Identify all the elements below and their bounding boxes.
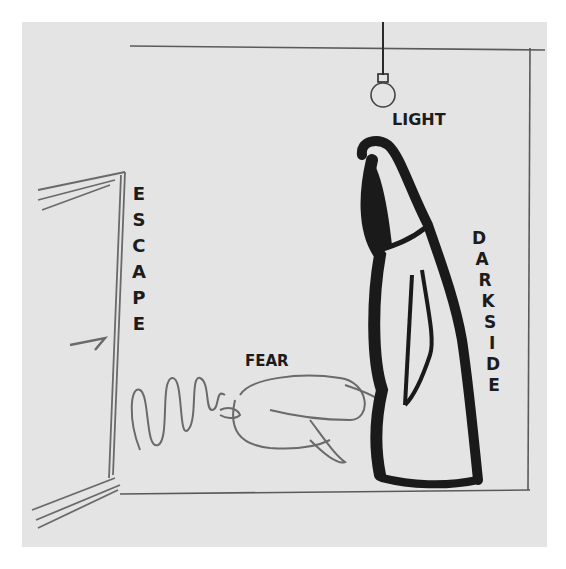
label-light: LIGHT	[392, 110, 446, 129]
label-escape-letter: A	[132, 263, 146, 281]
label-darkside-letter: S	[484, 314, 496, 331]
label-darkside: D A R K S I D E	[458, 230, 500, 394]
label-darkside-letter: K	[481, 293, 494, 310]
label-fear: FEAR	[245, 352, 289, 370]
label-darkside-letter: D	[486, 356, 500, 373]
label-escape-letter: C	[132, 237, 145, 255]
label-darkside-letter: A	[475, 251, 488, 268]
label-escape-letter: S	[132, 211, 145, 229]
sketch-canvas: LIGHT E S C A P E FEAR D A R K S I D E	[0, 0, 566, 569]
label-escape: E S C A P E	[132, 185, 146, 333]
label-darkside-letter: I	[489, 335, 495, 352]
label-escape-letter: E	[133, 185, 145, 203]
label-escape-letter: P	[132, 289, 145, 307]
label-darkside-letter: E	[488, 377, 500, 394]
label-darkside-letter: D	[472, 230, 486, 247]
label-darkside-letter: R	[479, 272, 492, 289]
label-escape-letter: E	[133, 315, 145, 333]
